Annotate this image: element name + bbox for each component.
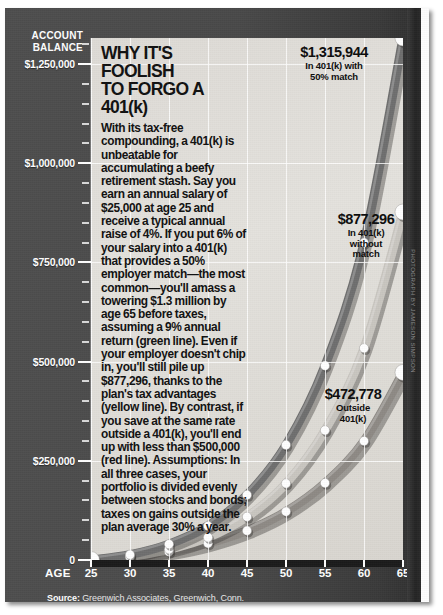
x-axis-tick-label: 60: [358, 567, 370, 579]
y-axis-minor-tick: [82, 182, 89, 184]
callout-match: $1,315,944 In 401(k) with 50% match: [275, 44, 393, 82]
x-axis-tick-label: 30: [124, 567, 136, 579]
x-axis-tick: [90, 560, 92, 567]
x-axis-tick-label: 55: [319, 567, 331, 579]
x-axis-tick-label: 35: [163, 567, 175, 579]
y-axis-tick-label: $1,250,000: [24, 58, 75, 70]
y-axis-minor-tick: [82, 321, 89, 323]
y-axis-minor-tick: [82, 43, 89, 45]
gridline-vertical: [247, 38, 248, 560]
x-axis-tick-label: 40: [202, 567, 214, 579]
callout-label-line-2: 401(k): [340, 413, 366, 424]
infographic-page: ACCOUNT BALANCE $1,250,000$1,000,000$750…: [0, 0, 443, 615]
y-axis: ACCOUNT BALANCE $1,250,000$1,000,000$750…: [5, 8, 91, 602]
x-axis-tick-label: 50: [280, 567, 292, 579]
x-axis-prefix-label: AGE: [45, 567, 71, 579]
x-axis-tick: [363, 560, 365, 567]
x-axis-tick: [168, 560, 170, 567]
photo-credit: PHOTOGRAPH BY JAMESON SIMPSON: [410, 241, 416, 381]
y-axis-tick-label: $250,000: [33, 455, 75, 467]
data-point: [91, 552, 100, 561]
callout-label: In 401(k) with 50% match: [275, 61, 393, 82]
x-axis-tick-label: 25: [85, 567, 97, 579]
callout-label: Outside 401(k): [305, 403, 401, 424]
callout-label-line-2: 50% match: [310, 71, 358, 82]
source-label: Source:: [47, 593, 80, 603]
y-axis-minor-tick: [82, 480, 89, 482]
y-axis-minor-tick: [82, 83, 89, 85]
x-axis-tick: [129, 560, 131, 567]
callout-amount: $1,315,944: [275, 44, 393, 60]
source-text: Greenwich Associates, Greenwich, Conn.: [82, 593, 244, 603]
gridline-vertical: [364, 38, 365, 560]
y-axis-tick-label: $500,000: [33, 356, 75, 368]
page-title: WHY IT'S FOOLISH TO FORGO A 401(k): [101, 44, 247, 116]
callout-outside: $472,778 Outside 401(k): [305, 386, 401, 424]
x-axis-tick: [324, 560, 326, 567]
source-note: Source: Greenwich Associates, Greenwich,…: [47, 593, 244, 603]
y-axis-minor-tick: [82, 341, 89, 343]
y-axis-minor-tick: [82, 499, 89, 501]
y-axis-minor-tick: [82, 242, 89, 244]
callout-label-line-1: In 401(k): [348, 227, 385, 238]
headline-line-2: TO FORGO A 401(k): [101, 80, 247, 116]
poster-frame: ACCOUNT BALANCE $1,250,000$1,000,000$750…: [5, 8, 429, 602]
y-axis-tick: [78, 63, 91, 65]
x-axis-tick: [285, 560, 287, 567]
y-axis-tick-label: $1,000,000: [24, 157, 75, 169]
y-axis-tick: [78, 460, 91, 462]
callout-no-match: $877,296 In 401(k) without match: [315, 211, 417, 260]
callout-label-line-2: without: [350, 238, 382, 249]
x-axis-tick: [402, 560, 404, 567]
callout-label: In 401(k) without match: [315, 228, 417, 260]
gridline-vertical: [286, 38, 287, 560]
x-axis-tick: [207, 560, 209, 567]
x-axis-tick: [246, 560, 248, 567]
callout-label-line-1: In 401(k) with: [305, 60, 362, 71]
y-axis-minor-tick: [82, 400, 89, 402]
y-axis-minor-tick: [82, 539, 89, 541]
y-axis-minor-tick: [82, 123, 89, 125]
y-axis-minor-tick: [82, 103, 89, 105]
y-axis-tick: [78, 361, 91, 363]
right-margin: [421, 8, 429, 602]
y-axis-minor-tick: [82, 281, 89, 283]
x-axis: AGE 253035404550556065: [5, 567, 429, 589]
x-axis-tick-label: 45: [241, 567, 253, 579]
headline-line-1: WHY IT'S FOOLISH: [101, 43, 174, 81]
callout-amount: $877,296: [315, 211, 417, 227]
body-paragraph: With its tax-free compounding, a 401(k) …: [101, 122, 247, 534]
y-axis-minor-tick: [82, 301, 89, 303]
callout-label-line-1: Outside: [336, 402, 370, 413]
y-axis-tick: [78, 162, 91, 164]
y-axis-minor-tick: [82, 222, 89, 224]
callout-label-line-3: match: [353, 248, 380, 259]
callout-amount: $472,778: [305, 386, 401, 402]
article-copy: WHY IT'S FOOLISH TO FORGO A 401(k) With …: [101, 44, 247, 534]
y-axis-tick-label: 0: [69, 554, 75, 566]
data-point: [395, 38, 403, 46]
y-axis-minor-tick: [82, 440, 89, 442]
y-axis-minor-tick: [82, 142, 89, 144]
y-axis-title: ACCOUNT BALANCE: [17, 30, 83, 53]
y-axis-minor-tick: [82, 420, 89, 422]
y-axis-minor-tick: [82, 202, 89, 204]
gridline-vertical: [325, 38, 326, 560]
y-axis-minor-tick: [82, 519, 89, 521]
y-axis-tick: [78, 261, 91, 263]
y-axis-minor-tick: [82, 380, 89, 382]
y-axis-tick-label: $750,000: [33, 256, 75, 268]
